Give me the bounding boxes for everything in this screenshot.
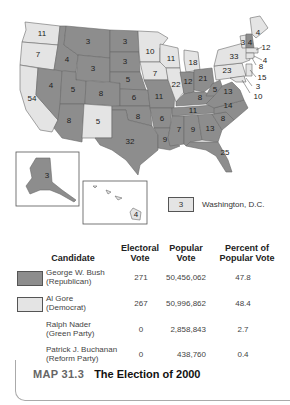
electoral-vote: 0	[126, 325, 156, 334]
svg-text:4: 4	[134, 210, 139, 219]
percent-vote: 48.4	[228, 299, 258, 308]
republican-swatch	[17, 271, 43, 286]
svg-text:11: 11	[155, 92, 164, 101]
caption-number: MAP 31.3	[33, 368, 84, 380]
us-electoral-map: 11 7 54 4 4 3 3 5 8 8 5 3 3 5 6 8 32 10 …	[0, 0, 290, 230]
svg-text:21: 21	[199, 74, 208, 83]
svg-text:5: 5	[126, 75, 131, 84]
svg-text:11: 11	[38, 29, 47, 38]
percent-vote: 2.7	[228, 325, 258, 334]
svg-text:8: 8	[136, 112, 141, 121]
header-popular-line1: Popular	[164, 243, 208, 253]
democrat-swatch	[17, 297, 43, 312]
state-fl	[186, 142, 232, 172]
svg-text:3: 3	[256, 82, 261, 91]
svg-text:18: 18	[189, 58, 198, 67]
candidate-cell: Ralph Nader (Green Party)	[46, 320, 94, 338]
popular-vote: 438,760	[160, 350, 206, 359]
svg-text:9: 9	[163, 135, 168, 144]
dc-label: Washington, D.C.	[202, 200, 264, 209]
header-electoral-line1: Electoral	[116, 243, 164, 253]
svg-text:25: 25	[221, 148, 230, 157]
svg-text:10: 10	[254, 92, 263, 101]
svg-text:8: 8	[198, 93, 203, 102]
candidate-party: (Green Party)	[46, 329, 94, 338]
svg-text:6: 6	[132, 93, 137, 102]
svg-text:12: 12	[262, 43, 271, 52]
svg-text:3: 3	[123, 57, 128, 66]
svg-text:11: 11	[167, 54, 176, 63]
svg-text:5: 5	[71, 85, 76, 94]
candidate-name: Ralph Nader	[46, 320, 94, 329]
svg-text:6: 6	[160, 114, 165, 123]
dc-electoral-box: 3	[168, 197, 194, 212]
table-row: Al Gore (Democrat) 267 50,996,862 48.4	[0, 294, 290, 320]
svg-text:8: 8	[99, 89, 104, 98]
state-ct	[246, 53, 254, 59]
map-caption: MAP 31.3The Election of 2000	[33, 368, 201, 380]
percent-vote: 0.4	[228, 350, 258, 359]
svg-text:7: 7	[36, 50, 41, 59]
svg-text:33: 33	[230, 52, 239, 61]
svg-text:4: 4	[248, 38, 253, 47]
candidate-name: Al Gore	[46, 294, 86, 303]
candidate-name: Patrick J. Buchanan	[46, 345, 117, 354]
svg-text:3: 3	[123, 37, 128, 46]
svg-text:5: 5	[96, 117, 101, 126]
popular-vote: 50,456,062	[160, 273, 206, 282]
electoral-vote: 0	[126, 350, 156, 359]
state-nj	[246, 64, 252, 76]
svg-text:14: 14	[224, 101, 233, 110]
header-percent-line1: Percent of	[218, 243, 276, 253]
svg-text:4: 4	[263, 56, 268, 65]
svg-text:10: 10	[146, 47, 155, 56]
table-row: George W. Bush (Republican) 271 50,456,0…	[0, 268, 290, 294]
svg-text:12: 12	[184, 77, 193, 86]
svg-text:3: 3	[86, 37, 91, 46]
svg-text:13: 13	[206, 124, 215, 133]
svg-text:9: 9	[191, 125, 196, 134]
svg-text:7: 7	[153, 69, 158, 78]
header-candidate: Candidate	[48, 253, 98, 263]
candidate-cell: Al Gore (Democrat)	[46, 294, 86, 312]
svg-text:32: 32	[126, 137, 135, 146]
svg-text:5: 5	[213, 85, 218, 94]
svg-text:11: 11	[189, 106, 198, 115]
header-popular-vote: Popular Vote	[164, 243, 208, 263]
electoral-vote: 271	[126, 273, 156, 282]
caption-frame	[15, 360, 290, 401]
svg-text:54: 54	[28, 94, 37, 103]
svg-text:8: 8	[259, 62, 264, 71]
svg-text:3: 3	[91, 64, 96, 73]
candidate-party: (Republican)	[46, 277, 105, 286]
header-percent: Percent of Popular Vote	[218, 243, 276, 263]
svg-text:15: 15	[258, 73, 267, 82]
svg-text:22: 22	[172, 80, 181, 89]
candidate-party: (Democrat)	[46, 303, 86, 312]
svg-text:7: 7	[177, 125, 182, 134]
header-popular-line2: Vote	[164, 253, 208, 263]
svg-text:4: 4	[256, 28, 261, 37]
state-ma	[246, 48, 258, 53]
svg-text:3: 3	[45, 171, 50, 180]
svg-text:4: 4	[65, 55, 70, 64]
electoral-vote: 267	[126, 299, 156, 308]
candidate-name: George W. Bush	[46, 268, 105, 277]
svg-text:4: 4	[49, 81, 54, 90]
svg-text:23: 23	[223, 66, 232, 75]
dc-legend: 3 Washington, D.C.	[168, 197, 264, 212]
header-percent-line2: Popular Vote	[218, 253, 276, 263]
candidate-cell: George W. Bush (Republican)	[46, 268, 105, 286]
header-electoral-line2: Vote	[116, 253, 164, 263]
caption-title: The Election of 2000	[94, 368, 200, 380]
svg-text:8: 8	[67, 116, 72, 125]
percent-vote: 47.8	[228, 273, 258, 282]
popular-vote: 2,858,843	[160, 325, 206, 334]
svg-text:13: 13	[224, 87, 233, 96]
table-row: Ralph Nader (Green Party) 0 2,858,843 2.…	[0, 320, 290, 346]
popular-vote: 50,996,862	[160, 299, 206, 308]
header-electoral-vote: Electoral Vote	[116, 243, 164, 263]
svg-text:3: 3	[241, 38, 246, 47]
svg-text:8: 8	[221, 114, 226, 123]
